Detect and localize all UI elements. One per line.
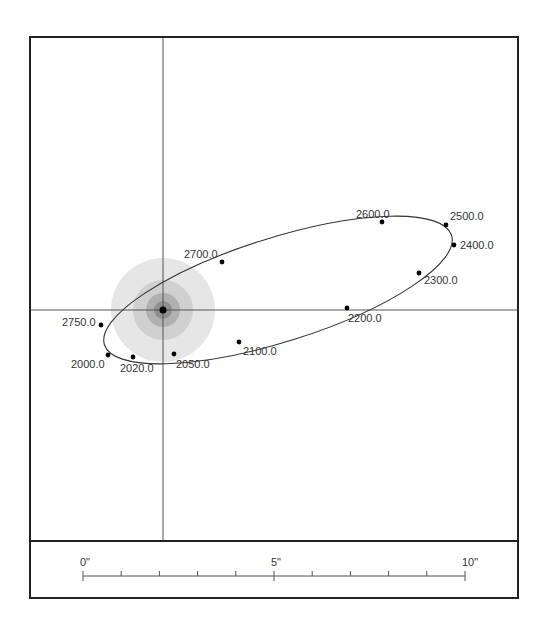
orbit-point-dot <box>444 223 449 228</box>
orbit-point-dot <box>106 353 111 358</box>
orbit-point-label: 2750.0 <box>62 316 96 328</box>
scale-frame <box>30 541 518 598</box>
orbit-point-label: 2050.0 <box>176 358 210 370</box>
orbit-point-label: 2500.0 <box>450 210 484 222</box>
orbit-point-dot <box>237 340 242 345</box>
primary-star-dot <box>160 307 167 314</box>
orbit-point-label: 2020.0 <box>120 362 154 374</box>
plot-frame <box>30 37 518 541</box>
orbit-point-dot <box>99 323 104 328</box>
orbit-point-label: 2300.0 <box>424 274 458 286</box>
scale-label: 5" <box>271 556 281 568</box>
orbit-point-label: 2100.0 <box>243 345 277 357</box>
scale-label: 0" <box>80 556 90 568</box>
orbit-point-label: 2000.0 <box>71 358 105 370</box>
orbit-point-dot <box>220 260 225 265</box>
orbit-point-dot <box>417 271 422 276</box>
orbit-point-label: 2600.0 <box>356 208 390 220</box>
orbit-point-label: 2400.0 <box>460 239 494 251</box>
orbit-point-dot <box>131 355 136 360</box>
orbit-point-dot <box>380 220 385 225</box>
orbit-diagram: 2000.02020.02050.02100.02200.02300.02400… <box>0 0 541 622</box>
orbit-point-dot <box>345 306 350 311</box>
scale-bar: 0"5"10" <box>80 556 478 581</box>
orbit-point-label: 2700.0 <box>184 248 218 260</box>
orbit-point-label: 2200.0 <box>348 312 382 324</box>
orbit-point-dot <box>172 352 177 357</box>
scale-label: 10" <box>462 556 478 568</box>
orbit-point-dot <box>452 243 457 248</box>
